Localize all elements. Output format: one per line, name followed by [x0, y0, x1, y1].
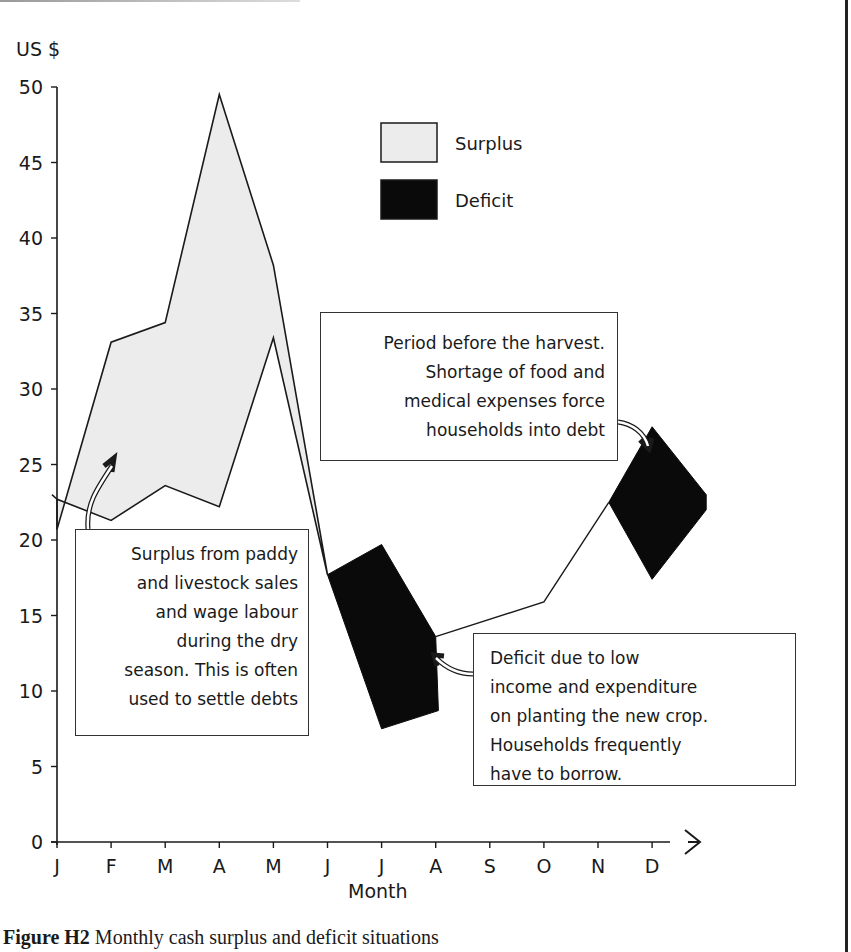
annotation-line: and livestock sales	[82, 569, 298, 598]
x-tick-label: J	[53, 855, 60, 877]
y-tick-label: 45	[19, 152, 43, 174]
y-tick-label: 25	[19, 454, 43, 476]
legend: Surplus Deficit	[381, 123, 522, 219]
y-tick-label: 10	[19, 680, 43, 702]
x-tick-label: J	[324, 855, 331, 877]
annotation-line: Households frequently	[490, 731, 787, 760]
x-axis-title: Month	[348, 880, 408, 902]
x-tick-label: M	[265, 855, 281, 877]
annotation-line: used to settle debts	[82, 685, 298, 714]
annotation-line: Period before the harvest.	[329, 329, 605, 358]
annotation-line: Shortage of food and	[329, 358, 605, 387]
legend-label-surplus: Surplus	[455, 133, 522, 154]
annotation-line: households into debt	[329, 416, 605, 445]
annotation-line: Deficit due to low	[490, 644, 787, 673]
legend-swatch-surplus	[381, 123, 437, 162]
y-tick-label: 35	[19, 303, 43, 325]
connector-lines	[436, 502, 609, 636]
figure-label: Figure H2	[3, 926, 90, 948]
annotation-line: medical expenses force	[329, 387, 605, 416]
annotation-line: Surplus from paddy	[82, 540, 298, 569]
annotation-harvest: Period before the harvest. Shortage of f…	[320, 312, 618, 461]
deficit-polygon	[609, 427, 706, 580]
connector-line	[436, 502, 609, 636]
y-tick-label: 0	[31, 831, 43, 853]
annotation-line: season. This is often	[82, 656, 298, 685]
legend-swatch-deficit	[381, 180, 437, 219]
x-tick-label: F	[106, 855, 117, 877]
annotation-line: have to borrow.	[490, 760, 787, 789]
y-tick-label: 5	[31, 756, 43, 778]
x-tick-label: S	[484, 855, 496, 877]
cash-flow-chart: 05101520253035404550JFMAMJJASOND Surplus…	[0, 0, 851, 952]
x-tick-label: J	[378, 855, 385, 877]
x-tick-label: A	[429, 855, 442, 877]
y-tick-label: 50	[19, 76, 43, 98]
x-tick-label: N	[591, 855, 605, 877]
annotation-deficit: Deficit due to low income and expenditur…	[473, 633, 796, 786]
annotation-surplus: Surplus from paddy and livestock sales a…	[75, 529, 309, 736]
y-tick-label: 40	[19, 227, 43, 249]
annotation-line: income and expenditure	[490, 673, 787, 702]
x-tick-label: M	[157, 855, 173, 877]
y-tick-label: 20	[19, 529, 43, 551]
annotation-line: on planting the new crop.	[490, 702, 787, 731]
surplus-polygon	[57, 95, 328, 575]
y-axis-title: US $	[16, 38, 60, 60]
x-tick-label: A	[213, 855, 226, 877]
figure-caption: Figure H2 Monthly cash surplus and defic…	[3, 926, 439, 949]
x-tick-label: D	[645, 855, 660, 877]
annotation-line: during the dry	[82, 627, 298, 656]
y-tick-label: 15	[19, 605, 43, 627]
annotation-line: and wage labour	[82, 598, 298, 627]
figure-caption-text: Monthly cash surplus and deficit situati…	[90, 926, 439, 948]
legend-label-deficit: Deficit	[455, 190, 513, 211]
y-tick-label: 30	[19, 378, 43, 400]
deficit-polygon	[328, 545, 439, 729]
axis-arrow-icon	[685, 830, 700, 854]
x-tick-label: O	[536, 855, 551, 877]
